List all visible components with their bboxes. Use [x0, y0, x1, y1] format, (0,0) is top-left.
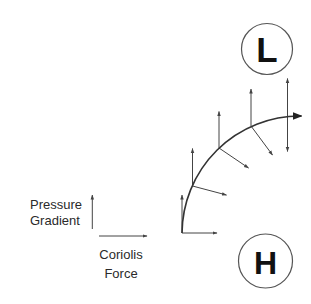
coriolis-arrow [219, 148, 249, 168]
coriolis-arrow [193, 186, 227, 195]
force-vectors [182, 79, 288, 234]
low-label: L [256, 30, 277, 69]
coriolis-label-line1: Coriolis [99, 247, 143, 262]
pressure-coriolis-diagram: L H Pressure Gradient Coriolis Force [0, 0, 311, 304]
coriolis-arrow [251, 126, 273, 155]
high-label: H [254, 245, 277, 281]
pressure-label-line1: Pressure [30, 197, 82, 212]
low-pressure-center: L [242, 24, 293, 75]
pressure-label-line2: Gradient [30, 213, 80, 228]
wind-trajectory-arrow [182, 116, 302, 233]
coriolis-label-line2: Force [104, 266, 137, 281]
high-pressure-center: H [239, 234, 293, 288]
legend: Pressure Gradient Coriolis Force [30, 195, 147, 281]
